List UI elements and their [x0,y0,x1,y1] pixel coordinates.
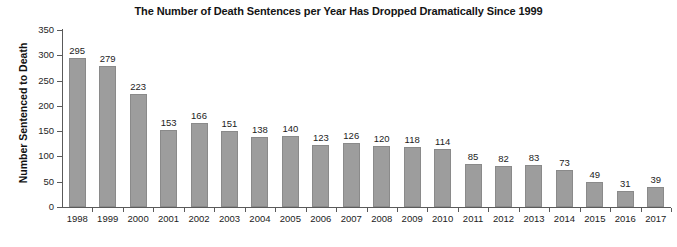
x-tick-label: 2013 [518,213,550,224]
x-tick-label: 1998 [61,213,93,224]
bar [465,164,482,207]
x-tick-mark [671,208,672,212]
bar-value-label: 73 [549,158,579,168]
bar [69,58,86,207]
bar [251,137,268,207]
y-tick-label: 300 [28,50,54,59]
x-tick-label: 2003 [213,213,245,224]
y-tick-mark [57,182,62,183]
bar [312,145,329,207]
bar [160,130,177,207]
bar [586,182,603,207]
bar-value-label: 114 [428,137,458,147]
x-tick-mark [92,208,93,212]
bar [495,166,512,207]
y-tick-label: 100 [28,151,54,160]
bar-value-label: 223 [123,82,153,92]
x-tick-label: 2002 [183,213,215,224]
bar [130,94,147,207]
x-tick-label: 2001 [153,213,185,224]
bar-value-label: 31 [610,179,640,189]
y-tick-label: 150 [28,126,54,135]
x-tick-label: 2009 [396,213,428,224]
x-tick-mark [610,208,611,212]
x-tick-mark [275,208,276,212]
y-axis-line [62,29,63,208]
x-tick-label: 2007 [335,213,367,224]
x-tick-mark [367,208,368,212]
y-tick-mark [57,106,62,107]
bar [282,136,299,207]
chart-title: The Number of Death Sentences per Year H… [0,5,677,17]
y-tick-label: 0 [28,202,54,211]
bar-value-label: 279 [93,54,123,64]
x-tick-mark [153,208,154,212]
x-tick-mark [306,208,307,212]
x-tick-label: 2005 [274,213,306,224]
y-tick-label: 50 [28,177,54,186]
y-tick-label: 200 [28,101,54,110]
bar-value-label: 82 [489,154,519,164]
y-tick-mark [57,156,62,157]
x-tick-mark [580,208,581,212]
bar [617,191,634,207]
x-tick-label: 2000 [122,213,154,224]
y-tick-mark [57,81,62,82]
x-tick-label: 2006 [305,213,337,224]
bar-value-label: 83 [519,153,549,163]
bar-value-label: 118 [397,135,427,145]
x-tick-mark [214,208,215,212]
x-tick-mark [641,208,642,212]
x-tick-label: 2010 [427,213,459,224]
bar-value-label: 151 [214,119,244,129]
bar [647,187,664,207]
x-tick-label: 2008 [366,213,398,224]
x-tick-mark [123,208,124,212]
bar [191,123,208,207]
bar [434,149,451,207]
x-tick-label: 2015 [579,213,611,224]
bar-value-label: 123 [306,133,336,143]
x-tick-mark [549,208,550,212]
bar-value-label: 295 [62,46,92,56]
bar-value-label: 39 [641,175,671,185]
x-tick-mark [427,208,428,212]
bar [343,143,360,207]
bar-value-label: 166 [184,111,214,121]
bar-value-label: 140 [275,124,305,134]
x-tick-label: 2012 [488,213,520,224]
y-tick-mark [57,207,62,208]
x-tick-mark [458,208,459,212]
y-tick-label: 350 [28,25,54,34]
bar [525,165,542,207]
bar-value-label: 138 [245,125,275,135]
x-tick-mark [397,208,398,212]
x-tick-label: 2004 [244,213,276,224]
bar [373,146,390,207]
bar-value-label: 85 [458,152,488,162]
x-tick-label: 1999 [92,213,124,224]
x-tick-mark [336,208,337,212]
x-tick-label: 2017 [640,213,672,224]
x-tick-mark [245,208,246,212]
bar [404,147,421,207]
x-tick-label: 2014 [548,213,580,224]
bar [99,66,116,207]
bar-value-label: 120 [367,134,397,144]
y-tick-mark [57,131,62,132]
y-tick-mark [57,30,62,31]
chart-figure: The Number of Death Sentences per Year H… [0,0,677,247]
x-tick-mark [488,208,489,212]
y-tick-label: 250 [28,76,54,85]
x-tick-mark [184,208,185,212]
x-tick-label: 2011 [457,213,489,224]
bar-value-label: 153 [154,118,184,128]
bar [221,131,238,207]
x-tick-mark [519,208,520,212]
bar [556,170,573,207]
bar-value-label: 49 [580,170,610,180]
x-tick-label: 2016 [609,213,641,224]
bar-value-label: 126 [336,131,366,141]
